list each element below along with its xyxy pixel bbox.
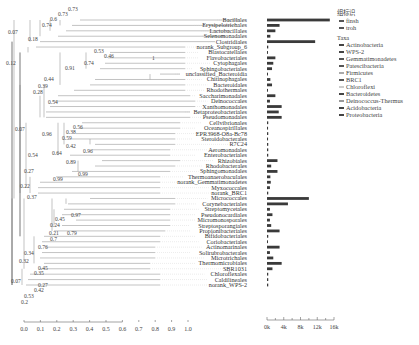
legend-taxa-item: Acidobacteria: [346, 104, 382, 111]
abundance-bar: [267, 159, 277, 162]
bootstrap-value: 0.76: [38, 244, 48, 250]
bootstrap-value: 0.91: [65, 65, 75, 71]
abundance-bar: [267, 235, 268, 238]
bootstrap-value: 0.99: [78, 171, 88, 177]
bar-axis-tick-label: 12k: [313, 324, 322, 330]
scale-tick-label: 0.6: [119, 326, 127, 332]
abundance-bar: [267, 208, 270, 211]
abundance-bar: [267, 143, 268, 146]
legend-taxa-title: Taxa: [337, 34, 349, 41]
phylogenetic-bar-chart: BacillalesErysipelotrichalesLactobacilla…: [0, 0, 419, 345]
abundance-bar: [267, 51, 268, 54]
abundance-bar: [267, 224, 271, 227]
abundance-bar: [267, 186, 270, 189]
bootstrap-value: 0.73: [58, 11, 68, 17]
scale-tick-label: 0.0: [20, 326, 28, 332]
legend-taxa-item: Firmicutes: [346, 69, 373, 76]
bootstrap-value: 0.97: [71, 212, 81, 218]
abundance-bar: [267, 100, 270, 103]
abundance-bar: [267, 40, 315, 43]
abundance-bar: [267, 267, 272, 270]
bootstrap-value: 0.34: [24, 250, 34, 256]
legend-group-item: troh: [346, 24, 357, 31]
bootstrap-value: 0.44: [44, 76, 54, 82]
bootstrap-value: 0.74: [84, 60, 94, 66]
abundance-bar: [267, 19, 330, 22]
legend-taxa-item: BRC1: [346, 76, 362, 83]
abundance-bar: [267, 170, 277, 173]
bootstrap-value: 0.32: [19, 258, 29, 264]
abundance-bar: [267, 127, 268, 130]
abundance-bar: [267, 111, 279, 114]
scale-tick-label: 0.7: [135, 326, 143, 332]
bootstrap-value: 0.07: [8, 29, 18, 35]
abundance-bar: [267, 138, 268, 141]
scale-tick-label: 1.0: [184, 326, 192, 332]
legend-group-title: 组标识: [337, 8, 355, 17]
bootstrap-value: 0.89: [66, 159, 76, 165]
legend-taxa-item: Patescibacteria: [346, 62, 384, 69]
bootstrap-value: 0.64: [52, 150, 62, 156]
bootstrap-value: 0.22: [20, 183, 30, 189]
bootstrap-value: 0.07: [11, 278, 21, 284]
abundance-bar: [267, 273, 268, 276]
bar-axis-tick-label: 4k: [281, 324, 287, 330]
bootstrap-value: 0.2: [21, 299, 28, 305]
abundance-bar: [267, 284, 268, 287]
bootstrap-value: 0.73: [68, 6, 78, 12]
bootstrap-value: 0.35: [34, 270, 44, 276]
bar-x-axis: 0k4k8k12k16k: [264, 317, 339, 330]
abundance-bar: [267, 105, 282, 108]
bootstrap-value: 0.42: [66, 143, 76, 149]
bootstrap-value: 0.18: [28, 36, 38, 42]
abundance-bar: [267, 148, 268, 151]
abundance-bar: [267, 116, 282, 119]
abundance-bar: [267, 24, 280, 27]
bootstrap-value: 0.07: [15, 126, 25, 132]
abundance-bar: [267, 202, 288, 205]
abundance-bars: [267, 19, 330, 287]
abundance-bar: [267, 278, 268, 281]
bootstrap-value: 0.42: [34, 287, 44, 293]
scale-tick-label: 0.3: [69, 326, 77, 332]
bootstrap-value: 0.12: [6, 60, 16, 66]
abundance-bar: [267, 246, 280, 249]
bootstrap-value: 1: [152, 55, 155, 61]
bootstrap-value: 0.24: [50, 222, 60, 228]
scale-tick-label: 0.2: [53, 326, 61, 332]
legend-group-item: finsh: [346, 17, 359, 24]
bootstrap-value: 0.99: [53, 176, 63, 182]
abundance-bar: [267, 132, 268, 135]
bootstrap-value: 0.54: [28, 152, 38, 158]
abundance-bar: [267, 192, 268, 195]
legend-taxa-item: WPS-2: [346, 48, 364, 55]
scale-tick-label: 0.9: [168, 326, 176, 332]
abundance-bar: [267, 175, 270, 178]
bootstrap-value: 0.37: [27, 194, 37, 200]
bootstrap-value: 0.96: [83, 148, 93, 154]
abundance-bar: [267, 219, 270, 222]
abundance-bar: [267, 181, 271, 184]
abundance-bar: [267, 83, 272, 86]
legend: 组标识finshtrohTaxaActinobacteriaWPS-2Gemma…: [337, 8, 404, 118]
scale-tick-label: 0.4: [86, 326, 94, 332]
abundance-bar: [267, 67, 272, 70]
bar-axis-tick-label: 8k: [298, 324, 304, 330]
bootstrap-value: 0.79: [67, 230, 77, 236]
abundance-bar: [267, 56, 275, 59]
abundance-bar: [267, 62, 273, 65]
abundance-bar: [267, 29, 275, 32]
abundance-bar: [267, 240, 268, 243]
bootstrap-value: 0.27: [24, 168, 34, 174]
tree-scale-axis: 0.00.10.20.30.40.50.60.70.80.91.0: [20, 320, 192, 332]
abundance-bar: [267, 89, 268, 92]
legend-taxa-item: Chloroflexi: [346, 83, 375, 90]
bootstrap-value: 0.74: [42, 22, 52, 28]
bootstrap-value: 0.96: [42, 131, 52, 137]
bootstrap-value: 0.7: [50, 236, 57, 242]
abundance-bar: [267, 213, 272, 216]
abundance-bar: [267, 257, 273, 260]
abundance-bar: [267, 154, 268, 157]
legend-taxa-item: Bacteroidetes: [346, 90, 381, 97]
abundance-bar: [267, 121, 268, 124]
